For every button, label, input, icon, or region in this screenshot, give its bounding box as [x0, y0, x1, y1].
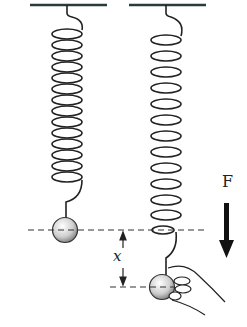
left-spring	[52, 5, 82, 218]
spring-diagram	[0, 0, 247, 327]
hand	[168, 266, 225, 315]
right-spring	[151, 5, 182, 275]
force-label: F	[222, 172, 233, 191]
displacement-label: x	[113, 247, 121, 265]
force-arrow	[219, 203, 234, 258]
